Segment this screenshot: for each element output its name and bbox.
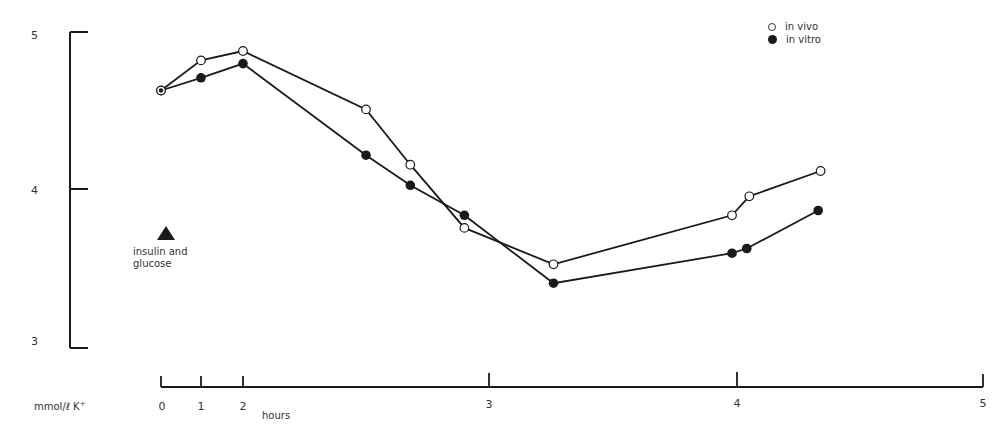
filled-circle-marker xyxy=(727,248,737,258)
x-axis-label: hours xyxy=(262,410,290,421)
line-chart xyxy=(0,0,1007,446)
series-markers xyxy=(156,47,825,288)
y-axis-unit-text: mmol/ℓ K xyxy=(34,401,80,412)
y-axis-unit-superscript: + xyxy=(80,400,86,408)
filled-circle-icon xyxy=(768,35,777,44)
legend-item-in-vivo: in vivo xyxy=(768,20,821,33)
filled-circle-marker xyxy=(238,59,248,69)
y-axis xyxy=(70,32,88,348)
filled-circle-marker xyxy=(460,211,470,221)
y-tick-label-4: 4 xyxy=(31,184,38,197)
open-circle-marker xyxy=(728,211,737,220)
filled-circle-marker xyxy=(406,181,416,191)
open-circle-icon xyxy=(768,23,776,31)
triangle-icon xyxy=(157,226,175,240)
open-circle-marker xyxy=(406,160,415,169)
series-lines xyxy=(161,51,821,283)
open-circle-marker xyxy=(460,224,469,233)
x-tick-label-3: 3 xyxy=(486,398,493,411)
x-tick-label-1: 1 xyxy=(198,400,205,413)
line-in-vitro xyxy=(161,64,818,284)
legend-label-in-vivo: in vivo xyxy=(785,20,818,33)
filled-circle-marker xyxy=(813,206,823,216)
annotation-line-1: insulin and xyxy=(133,246,188,258)
y-tick-label-3: 3 xyxy=(31,335,38,348)
x-tick-label-4: 4 xyxy=(734,397,741,410)
insulin-glucose-annotation: insulin and glucose xyxy=(133,246,188,270)
shared-start-marker xyxy=(159,88,163,92)
open-circle-marker xyxy=(362,105,371,114)
line-in-vivo xyxy=(161,51,821,264)
open-circle-marker xyxy=(239,47,248,56)
x-tick-label-0: 0 xyxy=(159,400,166,413)
filled-circle-marker xyxy=(196,73,206,83)
legend-item-in-vitro: in vitro xyxy=(768,33,821,46)
open-circle-marker xyxy=(745,192,754,201)
open-circle-marker xyxy=(816,167,825,176)
open-circle-marker xyxy=(549,260,558,269)
x-axis xyxy=(161,372,983,387)
open-circle-marker xyxy=(197,56,206,65)
filled-circle-marker xyxy=(742,244,752,254)
filled-circle-marker xyxy=(549,278,559,288)
y-axis-unit-label: mmol/ℓ K+ xyxy=(34,400,86,412)
x-tick-label-5: 5 xyxy=(980,397,987,410)
filled-circle-marker xyxy=(361,150,371,160)
y-tick-label-5: 5 xyxy=(31,29,38,42)
legend: in vivo in vitro xyxy=(768,20,821,46)
x-tick-label-2: 2 xyxy=(240,400,247,413)
legend-label-in-vitro: in vitro xyxy=(786,33,821,46)
annotation-line-2: glucose xyxy=(133,258,188,270)
